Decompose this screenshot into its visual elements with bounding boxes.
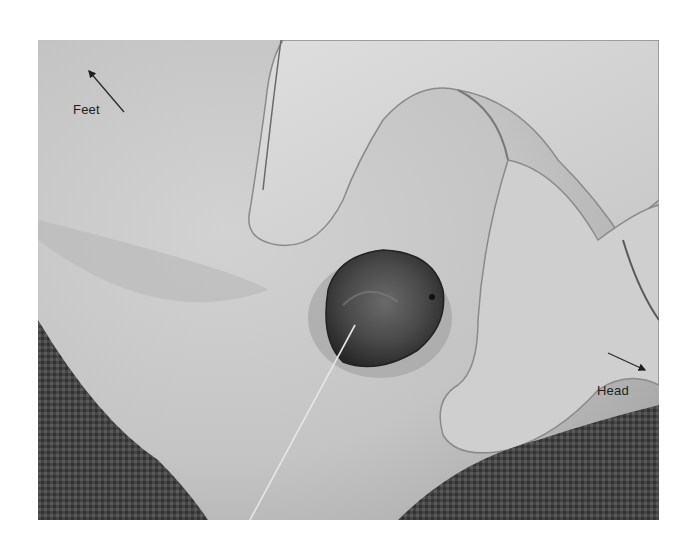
feet-label: Feet — [73, 102, 100, 117]
clinical-photo — [38, 40, 659, 520]
photo-illustration — [38, 40, 659, 520]
head-label: Head — [597, 383, 629, 398]
lesion-dark-spot — [429, 294, 435, 300]
